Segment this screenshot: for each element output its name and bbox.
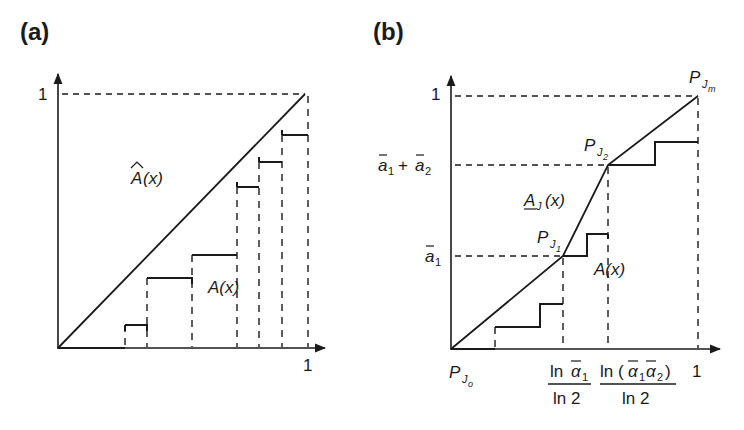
svg-text:ln: ln: [550, 362, 563, 381]
label-P-J0: P J o: [449, 363, 473, 389]
svg-text:P: P: [537, 228, 549, 247]
label-A-hat: A (x): [130, 162, 163, 188]
y-tick-1: 1: [38, 85, 47, 104]
svg-text:1: 1: [556, 244, 561, 254]
svg-text:P: P: [449, 363, 461, 382]
y-tick-1: 1: [431, 85, 440, 104]
svg-text:J: J: [596, 146, 603, 158]
svg-text:1: 1: [639, 371, 645, 383]
label-P-Jm: P J m: [689, 68, 716, 94]
svg-text:(x): (x): [545, 191, 565, 210]
AJ-polyline: [451, 96, 698, 349]
svg-text:1: 1: [388, 165, 394, 177]
svg-text:ln 2: ln 2: [553, 389, 580, 408]
diagonal-line: [58, 94, 305, 348]
panel-b-label: (b): [373, 18, 404, 45]
staircase-A: [58, 130, 308, 348]
label-A-step: A(x): [593, 260, 625, 279]
svg-text:A: A: [523, 191, 535, 210]
label-A-step: A(x): [207, 278, 239, 297]
svg-text:J: J: [549, 238, 556, 250]
label-AJ: A J (x): [523, 191, 565, 212]
x-tick-frac2: ln ( α 1 α 2 ) ln 2: [600, 361, 676, 408]
svg-text:J: J: [701, 78, 708, 90]
svg-text:ln (: ln (: [600, 362, 624, 381]
label-P-J1: P J 1: [537, 228, 561, 254]
svg-text:J: J: [461, 373, 468, 385]
panel-b: (b) 1 a 1 + a 2 a 1: [373, 18, 720, 408]
svg-text:a: a: [425, 247, 434, 266]
x-tick-1: 1: [692, 362, 701, 381]
svg-text:α: α: [646, 362, 657, 381]
svg-text:A: A: [130, 169, 142, 188]
svg-text:ln 2: ln 2: [622, 389, 649, 408]
svg-text:1: 1: [582, 371, 588, 383]
svg-text:2: 2: [425, 165, 431, 177]
x-tick-1: 1: [303, 356, 312, 375]
svg-text:α: α: [628, 362, 639, 381]
svg-text:m: m: [708, 84, 716, 94]
diagram-canvas: (a) 1 1: [0, 0, 744, 430]
svg-text:α: α: [571, 362, 582, 381]
dashed-verticals: [495, 98, 698, 348]
svg-text:(x): (x): [143, 169, 163, 188]
panel-a-label: (a): [20, 18, 49, 45]
svg-text:o: o: [468, 379, 473, 389]
svg-text:a: a: [378, 156, 387, 175]
label-P-J2: P J 2: [584, 136, 608, 162]
svg-text:a: a: [415, 156, 424, 175]
y-tick-a1-plus-a2: a 1 + a 2: [378, 155, 431, 177]
hat-icon: [131, 162, 143, 168]
svg-text:+: +: [398, 156, 408, 175]
svg-text:): ): [665, 362, 671, 381]
svg-text:2: 2: [657, 371, 663, 383]
svg-text:J: J: [535, 200, 542, 212]
x-tick-frac1: ln α 1 ln 2: [548, 361, 591, 408]
svg-text:2: 2: [602, 152, 608, 162]
dashed-verticals: [125, 96, 308, 347]
svg-text:1: 1: [435, 256, 441, 268]
panel-a: (a) 1 1: [20, 18, 325, 375]
y-tick-a1: a 1: [425, 246, 441, 268]
svg-text:P: P: [584, 136, 596, 155]
svg-text:P: P: [689, 68, 701, 87]
